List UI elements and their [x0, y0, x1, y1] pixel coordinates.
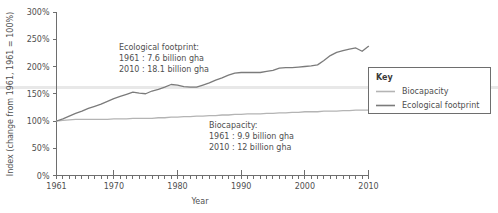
x-tick-label: 2010: [358, 182, 378, 191]
biocapacity-annotation-line-2: 1961 : 9.9 billion gha: [209, 132, 294, 141]
y-tick-label: 150%: [27, 90, 50, 99]
x-tick-label: 1980: [167, 182, 187, 191]
footprint-annotation: Ecological footprint: 1961 : 7.6 billion…: [119, 43, 209, 74]
legend: Key Biocapacity Ecological footprint: [369, 68, 491, 114]
y-tick-label: 300%: [27, 8, 50, 17]
x-axis-major-ticks: [57, 170, 369, 176]
legend-label-biocapacity: Biocapacity: [402, 87, 449, 96]
y-axis-ticks: [53, 12, 57, 176]
x-axis-tick-labels: 196119701980199020002010: [46, 182, 378, 191]
y-axis-title: Index (change from 1961, 1961 = 100%): [6, 12, 15, 176]
y-axis-tick-labels: 0%50%100%150%200%250%300%: [27, 8, 50, 181]
footprint-annotation-line-2: 1961 : 7.6 billion gha: [119, 54, 204, 63]
chart-svg: 0%50%100%150%200%250%300% 19611970198019…: [0, 0, 498, 213]
footprint-annotation-line-1: Ecological footprint:: [119, 43, 199, 52]
footprint-annotation-line-3: 2010 : 18.1 billion gha: [119, 65, 209, 74]
y-tick-label: 50%: [32, 144, 50, 153]
x-tick-label: 1990: [231, 182, 251, 191]
y-tick-label: 250%: [27, 35, 50, 44]
x-tick-label: 1961: [46, 182, 66, 191]
y-tick-label: 0%: [37, 172, 50, 181]
x-tick-label: 2000: [295, 182, 315, 191]
y-tick-label: 200%: [27, 63, 50, 72]
biocapacity-annotation-line-1: Biocapacity:: [209, 121, 258, 130]
series-line-biocapacity: [57, 110, 369, 121]
y-tick-label: 100%: [27, 117, 50, 126]
x-tick-label: 1970: [104, 182, 124, 191]
series-line-ecological-footprint: [57, 46, 369, 121]
biocapacity-annotation-line-3: 2010 : 12 billion gha: [209, 143, 291, 152]
legend-label-ecological-footprint: Ecological footprint: [402, 101, 479, 110]
biocapacity-annotation: Biocapacity: 1961 : 9.9 billion gha 2010…: [209, 121, 294, 152]
chart-container: 0%50%100%150%200%250%300% 19611970198019…: [0, 0, 498, 213]
x-axis-title: Year: [191, 197, 210, 206]
legend-title: Key: [376, 73, 393, 82]
